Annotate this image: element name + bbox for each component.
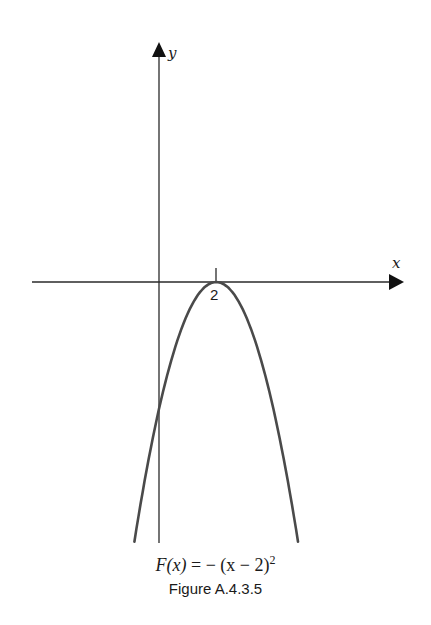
formula-rhs: = − (x − 2) — [187, 555, 270, 575]
y-axis-arrow-icon — [152, 42, 166, 57]
function-formula: F(x) = − (x − 2)2 — [0, 553, 431, 576]
figure-caption: Figure A.4.3.5 — [0, 580, 431, 597]
parabola-chart: x y 2 — [0, 0, 431, 625]
x-tick-label-2: 2 — [210, 286, 218, 303]
formula-exponent: 2 — [269, 553, 275, 567]
y-axis-label: y — [167, 44, 177, 62]
formula-lhs: F(x) — [156, 555, 187, 575]
x-axis-label: x — [392, 254, 401, 272]
x-axis-arrow-icon — [389, 274, 404, 290]
